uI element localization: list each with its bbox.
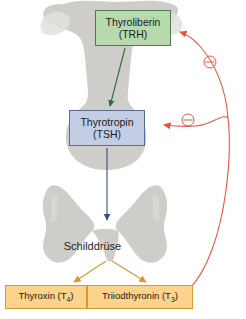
arrow-thyroid-to-t4 (74, 261, 106, 282)
node-t4-text: Thyroxin (T (18, 290, 66, 301)
node-tsh: Thyrotropin (TSH) (69, 110, 145, 146)
feedback-stem (190, 118, 229, 288)
node-t3-text: Triiodthyronin (T (102, 290, 171, 301)
node-t4-label: Thyroxin (T4) (18, 291, 73, 304)
arrow-feedback-to-tsh (164, 117, 228, 127)
node-t3-label: Triiodthyronin (T3) (102, 291, 178, 304)
node-trh-line1: Thyroliberin (106, 16, 161, 28)
minus-sign-feedback-tsh (182, 114, 194, 126)
node-trh-line2: (TRH) (119, 28, 148, 40)
node-tsh-line2: (TSH) (93, 128, 121, 140)
arrow-feedback-to-trh (180, 32, 228, 118)
node-t3: Triiodthyronin (T3) (87, 285, 193, 309)
node-t4-tail: ) (70, 290, 73, 301)
thyroid-gland-label: Schilddrüse (0, 240, 185, 252)
node-t4: Thyroxin (T4) (5, 285, 87, 309)
node-trh: Thyroliberin (TRH) (95, 10, 171, 46)
node-tsh-line1: Thyrotropin (80, 116, 133, 128)
arrow-trh-to-tsh (110, 48, 125, 106)
thyroid-feedback-diagram: Thyroliberin (TRH) Thyrotropin (TSH) Thy… (0, 0, 246, 319)
node-t3-tail: ) (175, 290, 178, 301)
minus-sign-feedback-trh (204, 56, 216, 68)
arrow-layer (0, 0, 246, 319)
arrow-thyroid-to-t3 (112, 261, 146, 282)
